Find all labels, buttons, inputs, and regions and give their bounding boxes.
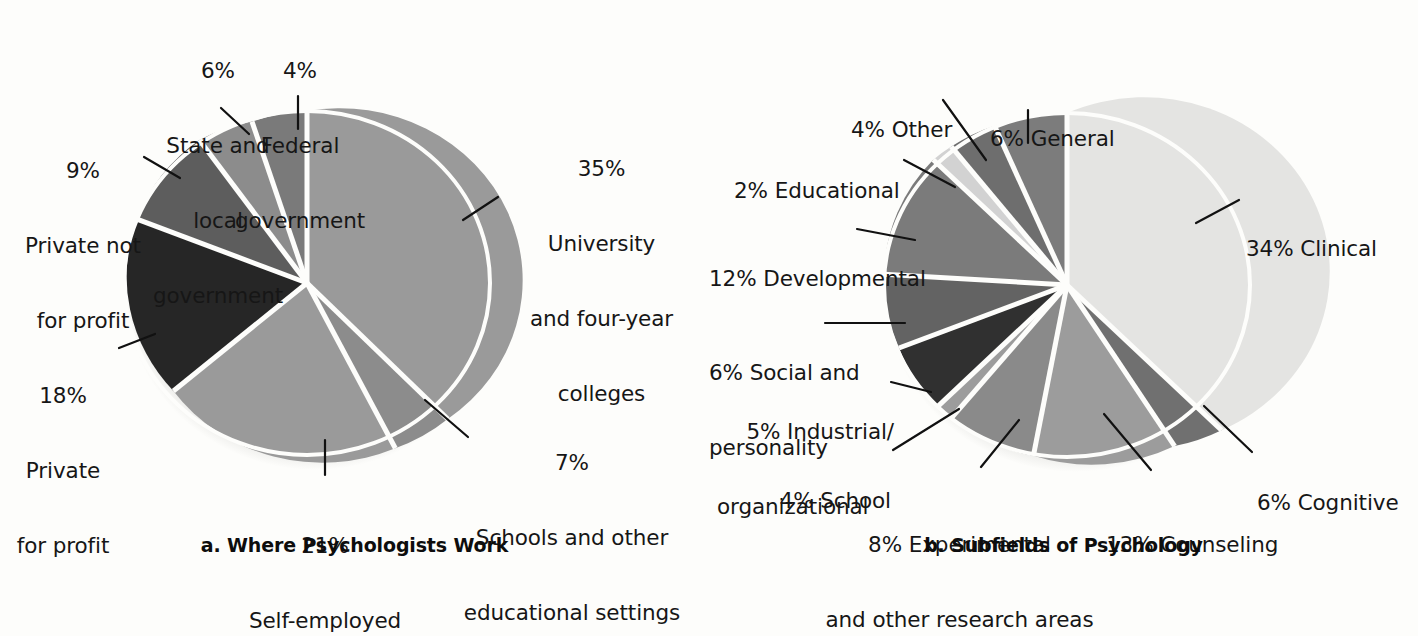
label-developmental-text: 12% Developmental [709, 266, 854, 291]
label-private-not-profit-line2: Private not [8, 233, 158, 258]
label-private-for-profit: 18% Private for profit [3, 333, 123, 608]
label-federal-government: 4% Federal government [220, 8, 380, 283]
label-schools-line3: educational settings [436, 600, 708, 625]
label-university-pct: 35% [494, 156, 709, 181]
label-university-line4: colleges [494, 381, 709, 406]
label-educational-text: 2% Educational [734, 178, 944, 203]
label-self-employed-line2: Self-employed [222, 608, 428, 633]
label-experimental-line2: and other research areas [817, 607, 1102, 632]
label-university-four-year-colleges: 35% University and four-year colleges [494, 106, 709, 456]
label-experimental-research: 8% Experimental and other research areas [817, 482, 1102, 636]
label-private-not-profit-pct: 9% [8, 158, 158, 183]
label-federal-pct: 4% [220, 58, 380, 83]
label-self-employed: 21% Self-employed [222, 483, 428, 636]
label-private-for-profit-line2: Private [3, 458, 123, 483]
panel-a-where-psychologists-work: 6% State and local government 4% Federal… [0, 0, 709, 588]
label-university-line3: and four-year [494, 306, 709, 331]
label-cognitive-text: 6% Cognitive [1257, 490, 1418, 515]
label-private-not-profit-line3: for profit [8, 308, 158, 333]
label-private-for-profit-pct: 18% [3, 383, 123, 408]
label-university-line2: University [494, 231, 709, 256]
label-federal-line3: government [220, 208, 380, 233]
label-clinical-text: 34% Clinical [1246, 236, 1418, 261]
label-federal-line2: Federal [220, 133, 380, 158]
caption-panel-a: a. Where Psychologists Work [0, 534, 709, 556]
label-clinical: 34% Clinical [1246, 186, 1418, 311]
caption-panel-b: b. Subfields of Psychology [709, 534, 1418, 556]
panel-b-subfields-of-psychology: 6% General 4% Other 2% Educational 12% D… [709, 0, 1418, 588]
